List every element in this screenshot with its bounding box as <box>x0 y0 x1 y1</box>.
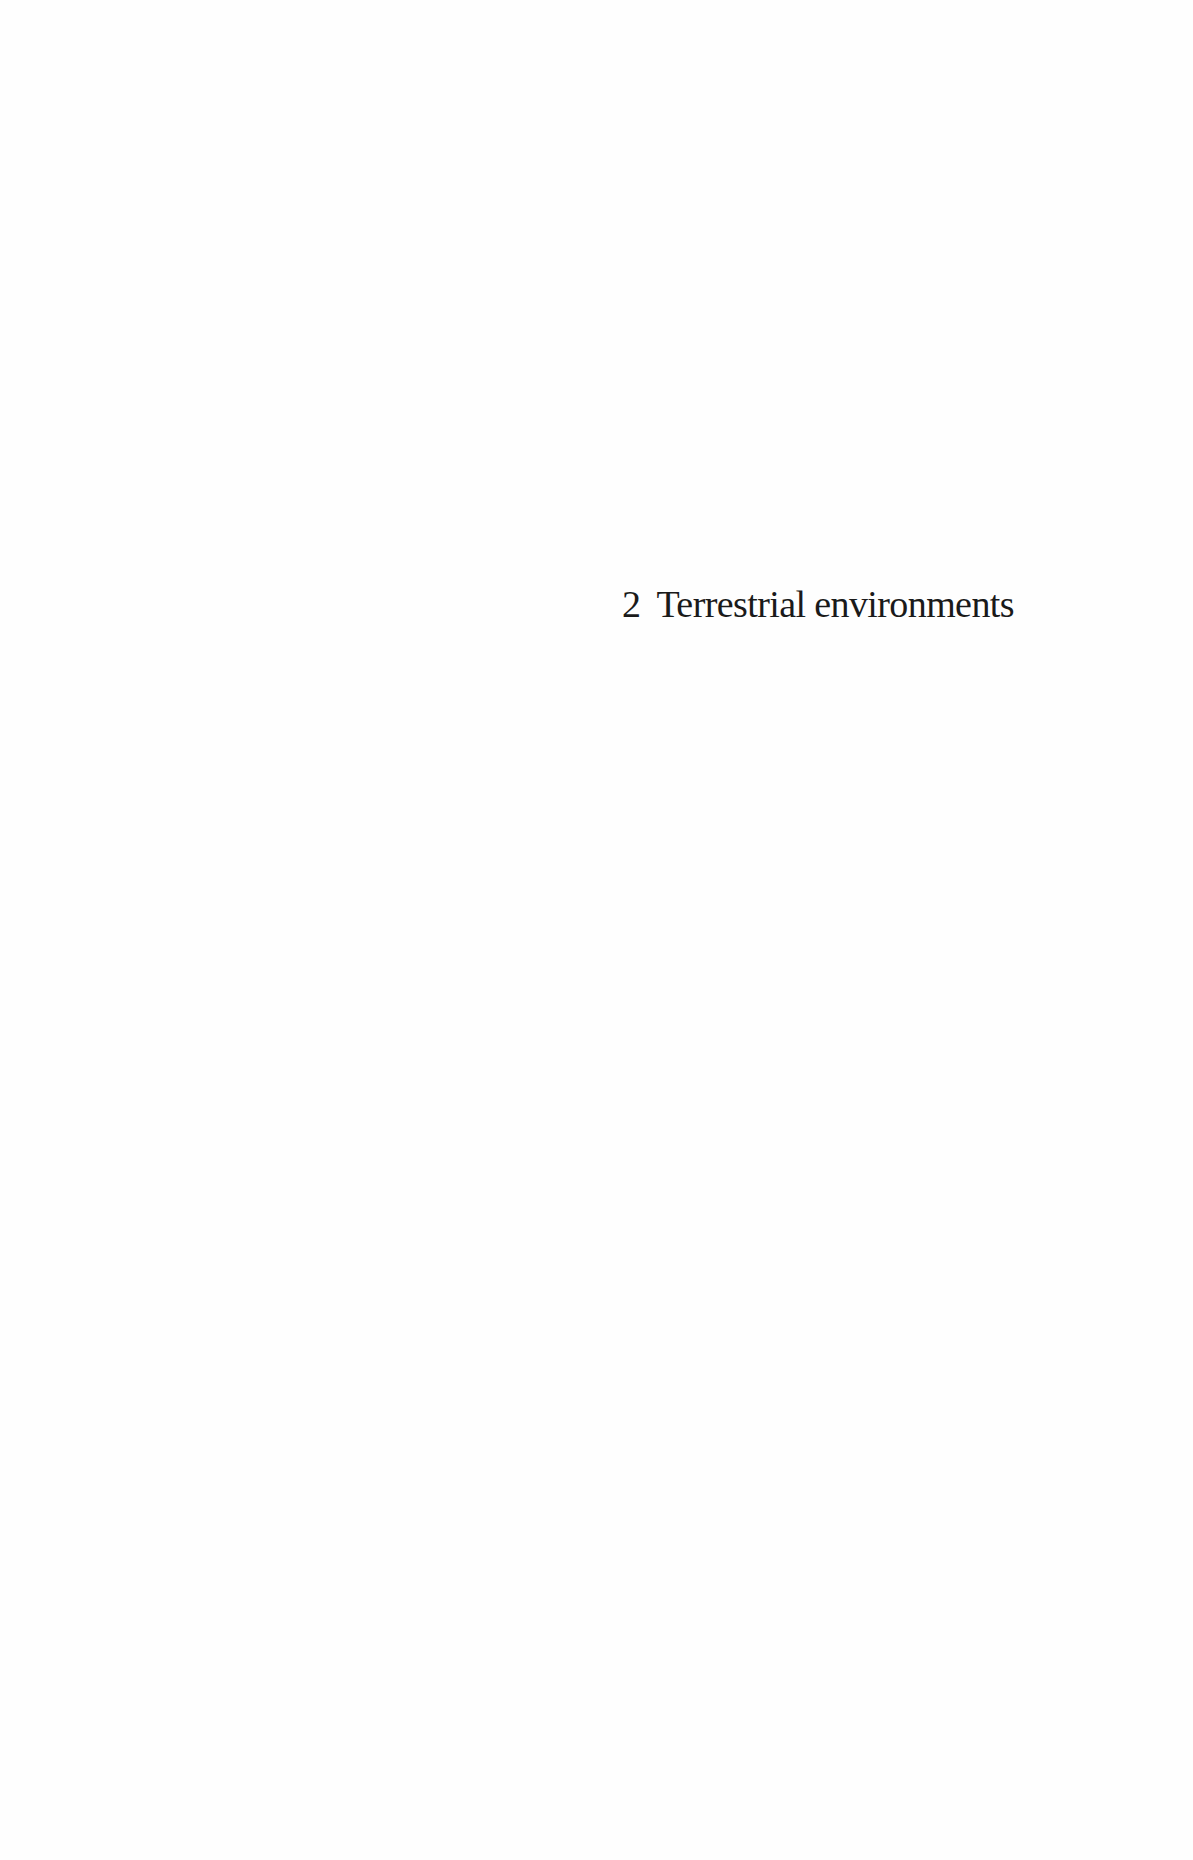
part-title-heading: 2Terrestrial environments <box>622 580 1014 628</box>
part-number: 2 <box>622 583 640 625</box>
book-page: 2Terrestrial environments <box>0 0 1193 1860</box>
part-name: Terrestrial environments <box>656 583 1014 625</box>
